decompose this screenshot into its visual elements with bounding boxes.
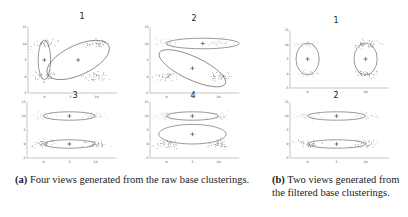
svg-text:15: 15 (22, 25, 26, 29)
svg-text:5: 5 (286, 128, 288, 132)
svg-text:15: 15 (284, 28, 288, 32)
svg-text:5: 5 (336, 160, 338, 164)
svg-text:10: 10 (22, 42, 26, 46)
svg-text:0: 0 (146, 75, 148, 79)
scatter-plot: 151050-50510 (278, 10, 408, 90)
caption-b: (b) Two views generated from the filtere… (272, 173, 406, 199)
panel-a3: 3 151050-50510 (10, 90, 140, 165)
panel-a4: 4 151050-50510 (140, 90, 270, 165)
svg-text:-5: -5 (22, 156, 25, 160)
panel-b1: 1 151050-50510 (278, 10, 408, 90)
panel-b2: 2 151050-50510 (278, 90, 408, 165)
svg-text:-5: -5 (285, 156, 288, 160)
svg-text:0: 0 (165, 160, 167, 164)
svg-text:15: 15 (144, 100, 148, 104)
svg-text:5: 5 (23, 128, 25, 132)
svg-text:10: 10 (21, 114, 25, 118)
svg-text:10: 10 (284, 43, 288, 47)
svg-text:10: 10 (144, 114, 148, 118)
panel-a1: 1 151050-50510 (10, 10, 140, 90)
svg-text:10: 10 (284, 114, 288, 118)
svg-text:10: 10 (93, 160, 97, 164)
caption-text: Four views generated from the raw base c… (27, 174, 249, 185)
caption-label: (a) (15, 174, 27, 185)
svg-text:10: 10 (364, 160, 368, 164)
svg-text:0: 0 (307, 160, 309, 164)
svg-text:0: 0 (286, 72, 288, 76)
svg-text:5: 5 (146, 58, 148, 62)
svg-text:0: 0 (286, 142, 288, 146)
svg-text:5: 5 (191, 160, 193, 164)
scatter-plot: 151050-50510 (278, 90, 408, 165)
svg-text:15: 15 (21, 100, 25, 104)
svg-text:0: 0 (23, 142, 25, 146)
scatter-plot: 151050-50510 (10, 10, 140, 90)
svg-text:5: 5 (286, 57, 288, 61)
svg-text:5: 5 (146, 128, 148, 132)
scatter-plot: 151050-50510 (10, 90, 140, 165)
caption-label: (b) (272, 174, 285, 185)
svg-text:10: 10 (144, 42, 148, 46)
svg-text:15: 15 (284, 100, 288, 104)
caption-text: Two views generated from the filtered ba… (272, 174, 399, 198)
svg-text:0: 0 (42, 160, 44, 164)
svg-text:10: 10 (216, 160, 220, 164)
svg-text:0: 0 (24, 75, 26, 79)
scatter-plot: 151050-50510 (140, 90, 270, 165)
svg-text:-5: -5 (145, 156, 148, 160)
svg-text:5: 5 (68, 160, 70, 164)
panel-a2: 2 151050-50510 (140, 10, 270, 90)
svg-text:15: 15 (144, 25, 148, 29)
scatter-plot: 151050-50510 (140, 10, 270, 90)
svg-text:5: 5 (24, 58, 26, 62)
caption-a: (a) Four views generated from the raw ba… (15, 173, 265, 186)
svg-text:0: 0 (146, 142, 148, 146)
